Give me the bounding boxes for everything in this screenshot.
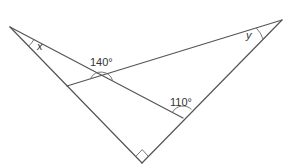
angle-110-label: 110° <box>170 96 192 108</box>
geometry-diagram: x y 140° 110° <box>0 0 290 168</box>
right-angle-marker <box>136 150 149 157</box>
angle-x-arc <box>29 40 34 47</box>
angle-140-label: 140° <box>90 56 113 68</box>
angle-y-label: y <box>245 29 253 41</box>
angle-x-label: x <box>36 40 43 52</box>
segment-a-c <box>10 27 142 163</box>
angle-y-arc <box>256 28 263 39</box>
